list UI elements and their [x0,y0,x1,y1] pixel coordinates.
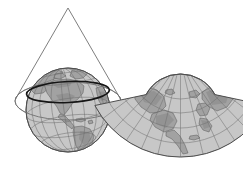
figure-canvas [0,0,243,171]
figure-root: Conic map projection: tangent cone on gl… [0,0,243,171]
land-antilles [88,120,93,124]
